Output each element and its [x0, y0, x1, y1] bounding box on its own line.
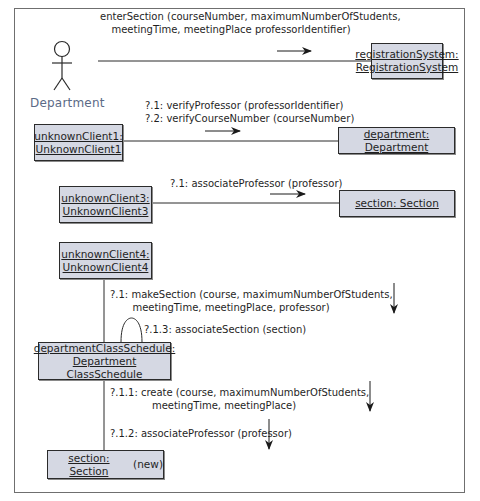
- message-line: meetingTime, meetingPlace): [110, 399, 338, 412]
- message-line: ?.1: makeSection (course, maximumNumberO…: [110, 288, 352, 301]
- message-line: enterSection (courseNumber, maximumNumbe…: [100, 10, 362, 23]
- message-line: ?.1.2: associateProfessor (professor): [110, 428, 292, 439]
- object-label: section: Section: [48, 452, 130, 478]
- object-label: unknownClient4:: [61, 248, 149, 261]
- message-create: ?.1.1: create (course, maximumNumberOfSt…: [110, 386, 338, 412]
- object-section: section: Section: [339, 190, 455, 217]
- message-line: ?.1: verifyProfessor (professorIdentifie…: [145, 99, 354, 112]
- object-label: Department ClassSchedule: [39, 355, 170, 381]
- message-line: ?.1.3: associateSection (section): [144, 324, 306, 335]
- message-line: ?.1: associateProfessor (professor): [170, 178, 342, 189]
- object-label: unknownClient1:: [34, 130, 122, 143]
- message-line: ?.2: verifyCourseNumber (courseNumber): [145, 112, 354, 125]
- message-verify: ?.1: verifyProfessor (professorIdentifie…: [145, 99, 354, 125]
- object-section-new: section: Section (new): [47, 450, 164, 479]
- actor-label: Department: [30, 96, 105, 110]
- message-associate-professor-2: ?.1.2: associateProfessor (professor): [110, 427, 292, 440]
- object-registration-system: registrationSystem: RegistrationSystem: [371, 43, 443, 79]
- message-enter-section: enterSection (courseNumber, maximumNumbe…: [100, 10, 362, 36]
- object-label: UnknownClient4: [63, 261, 149, 274]
- object-unknown-client1: unknownClient1: UnknownClient1: [34, 124, 123, 161]
- message-line: meetingTime, meetingPlace, professor): [110, 301, 352, 314]
- message-line: ?.1.1: create (course, maximumNumberOfSt…: [110, 386, 338, 399]
- object-label: registrationSystem:: [355, 48, 458, 61]
- object-label: department: Department: [339, 128, 454, 154]
- object-label: departmentClassSchedule:: [34, 342, 176, 355]
- message-line: meetingTime, meetingPlace professorIdent…: [100, 23, 362, 36]
- object-unknown-client4: unknownClient4: UnknownClient4: [59, 242, 152, 279]
- message-associate-professor-1: ?.1: associateProfessor (professor): [170, 177, 342, 190]
- object-label: RegistrationSystem: [356, 61, 458, 74]
- object-label-suffix: (new): [130, 458, 163, 471]
- object-label: unknownClient3:: [61, 192, 149, 205]
- object-label: section: Section: [355, 197, 439, 210]
- self-loop: [121, 318, 142, 342]
- actor-icon: [52, 42, 72, 91]
- object-label: UnknownClient1: [36, 143, 122, 156]
- message-associate-section: ?.1.3: associateSection (section): [144, 323, 306, 336]
- object-label: UnknownClient3: [63, 205, 149, 218]
- message-make-section: ?.1: makeSection (course, maximumNumberO…: [110, 288, 352, 314]
- object-unknown-client3: unknownClient3: UnknownClient3: [59, 186, 152, 223]
- object-department: department: Department: [338, 127, 455, 154]
- object-department-class-schedule: departmentClassSchedule: Department Clas…: [38, 342, 171, 380]
